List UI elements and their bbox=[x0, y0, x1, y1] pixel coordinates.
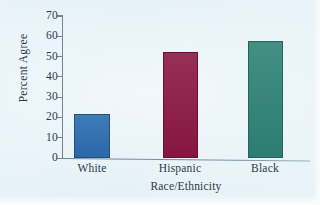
bar-white[interactable] bbox=[74, 114, 110, 158]
bar-black-fill bbox=[248, 41, 283, 158]
category-label-black: Black bbox=[220, 162, 310, 174]
bar-white-fill bbox=[74, 114, 110, 158]
x-axis-line bbox=[62, 158, 310, 162]
category-label-white: White bbox=[47, 162, 137, 174]
category-label-hispanic: Hispanic bbox=[135, 162, 225, 174]
x-axis-title: Race/Ethnicity bbox=[62, 180, 310, 192]
bar-hispanic-fill bbox=[163, 52, 198, 159]
bar-black[interactable] bbox=[248, 41, 283, 158]
plot-area: 0 10 20 30 40 50 60 70 Percent Agree Whi… bbox=[0, 0, 320, 205]
y-axis-title: Percent Agree bbox=[17, 14, 29, 122]
y-tick-label-10: 10 bbox=[18, 132, 58, 144]
bar-hispanic[interactable] bbox=[163, 52, 198, 159]
y-axis-line bbox=[62, 15, 63, 159]
chart-figure: 0 10 20 30 40 50 60 70 Percent Agree Whi… bbox=[0, 0, 320, 205]
